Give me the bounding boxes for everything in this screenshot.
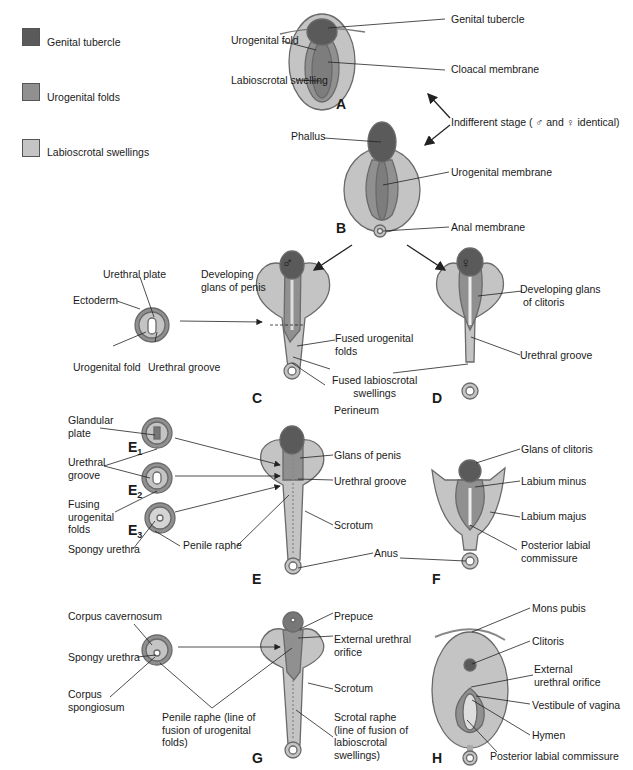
- label-spongy-urethra-g: Spongy urethra: [68, 651, 140, 664]
- label-fusing-urogenital-folds: Fusing urogenital folds: [68, 498, 114, 536]
- label-line: spongiosum: [68, 701, 125, 713]
- label-vestibule-of-vagina: Vestibule of vagina: [532, 699, 620, 712]
- label-urethral-groove-cs: Urethral groove: [148, 361, 220, 374]
- label-line: labioscrotal: [334, 736, 387, 748]
- label-labium-minus: Labium minus: [521, 475, 586, 488]
- section-e3: E3: [128, 522, 142, 540]
- label-line: swellings): [334, 749, 380, 761]
- label-indifferent-stage: Indifferent stage ( ♂ and ♀ identical): [451, 116, 619, 129]
- label-line: External urethral: [334, 633, 411, 645]
- label-line: plate: [68, 427, 91, 439]
- label-urethral-plate: Urethral plate: [103, 268, 166, 281]
- panel-letter-g: G: [252, 750, 263, 766]
- label-line: glans of penis: [201, 281, 266, 293]
- panel-letter-d: D: [432, 390, 442, 406]
- label-external-urethral-orifice-g: External urethral orifice: [334, 633, 411, 658]
- label-line: (line of fusion of: [334, 724, 408, 736]
- label-scrotum-g: Scrotum: [334, 682, 373, 695]
- label-line: External: [534, 663, 573, 675]
- label-line: folds: [335, 345, 357, 357]
- label-glans-of-clitoris: Glans of clitoris: [521, 443, 593, 456]
- label-urogenital-membrane: Urogenital membrane: [451, 166, 552, 179]
- panel-letter-e: E: [252, 571, 261, 587]
- male-symbol: ♂: [282, 254, 293, 271]
- label-cloacal-membrane: Cloacal membrane: [451, 63, 539, 76]
- figure-f: [432, 460, 505, 569]
- label-spongy-urethra-e: Spongy urethra: [68, 543, 140, 556]
- label-line: fusion of urogenital: [162, 724, 251, 736]
- label-urogenital-fold: Urogenital fold: [231, 34, 299, 47]
- label-scrotal-raphe: Scrotal raphe (line of fusion of labiosc…: [334, 711, 408, 761]
- panel-letter-c: C: [252, 390, 262, 406]
- label-line: of clitoris: [520, 296, 564, 308]
- section-e2: E2: [128, 482, 142, 500]
- label-line: Scrotal raphe: [334, 711, 396, 723]
- label-line: Fused labioscrotal: [332, 374, 417, 386]
- label-urethral-groove-e: Urethral groove: [334, 475, 406, 488]
- section-e1: E1: [128, 439, 142, 457]
- panel-letter-f: F: [432, 571, 441, 587]
- label-posterior-labial-commissure-h: Posterior labial commissure: [490, 750, 619, 763]
- label-line: urethral orifice: [534, 676, 601, 688]
- panel-letter-a: A: [336, 96, 346, 112]
- panel-letter-h: H: [432, 750, 442, 766]
- label-line: orifice: [334, 646, 362, 658]
- label-line: folds: [68, 523, 90, 535]
- label-line: Fusing: [68, 498, 100, 510]
- label-line: Developing: [201, 268, 254, 280]
- label-corpus-spongiosum: Corpus spongiosum: [68, 688, 125, 713]
- label-penile-raphe-e: Penile raphe: [183, 539, 242, 552]
- label-line: commissure: [521, 552, 578, 564]
- label-phallus: Phallus: [291, 130, 325, 143]
- label-urogenital-fold-cs: Urogenital fold: [73, 361, 141, 374]
- label-labium-majus: Labium majus: [521, 510, 586, 523]
- panel-letter-b: B: [336, 220, 346, 236]
- label-line: Posterior labial: [521, 539, 590, 551]
- label-glandular-plate: Glandular plate: [68, 414, 114, 439]
- label-hymen: Hymen: [532, 729, 565, 742]
- label-line: Penile raphe (line of: [162, 711, 255, 723]
- label-glans-of-penis: Glans of penis: [334, 449, 401, 462]
- label-corpus-cavernosum: Corpus cavernosum: [68, 610, 162, 623]
- label-fused-labioscrotal-swellings: Fused labioscrotal swellings: [332, 374, 417, 399]
- label-line: groove: [68, 469, 100, 481]
- label-line: urogenital: [68, 511, 114, 523]
- label-line: Glandular: [68, 414, 114, 426]
- label-line: Urethral: [68, 456, 105, 468]
- figure-a: [280, 14, 365, 110]
- label-line: swellings: [353, 387, 396, 399]
- label-line: Developing glans: [520, 283, 601, 295]
- label-line: folds): [162, 736, 188, 748]
- label-perineum: Perineum: [334, 404, 379, 417]
- label-line: Fused urogenital: [335, 332, 413, 344]
- label-clitoris: Clitoris: [532, 635, 564, 648]
- label-developing-glans-penis: Developing glans of penis: [201, 268, 266, 293]
- label-fused-urogenital-folds: Fused urogenital folds: [335, 332, 413, 357]
- label-anal-membrane: Anal membrane: [451, 221, 525, 234]
- label-developing-glans-clitoris: Developing glans of clitoris: [520, 283, 601, 308]
- label-line: Corpus: [68, 688, 102, 700]
- label-posterior-labial-commissure-f: Posterior labial commissure: [521, 539, 590, 564]
- label-labioscrotal-swelling: Labioscrotal swelling: [231, 74, 328, 87]
- figure-b: [344, 122, 420, 237]
- female-symbol: ♀: [460, 254, 471, 271]
- label-anus: Anus: [374, 547, 398, 560]
- label-genital-tubercle: Genital tubercle: [451, 13, 525, 26]
- label-urethral-groove-d: Urethral groove: [520, 349, 592, 362]
- figure-h: [432, 629, 508, 765]
- label-external-urethral-orifice-h: External urethral orifice: [534, 663, 601, 688]
- label-urethral-groove-e-cs: Urethral groove: [68, 456, 105, 481]
- label-prepuce: Prepuce: [334, 610, 373, 623]
- label-ectoderm: Ectoderm: [73, 294, 118, 307]
- label-mons-pubis: Mons pubis: [532, 602, 586, 615]
- label-scrotum-e: Scrotum: [334, 519, 373, 532]
- label-penile-raphe-g: Penile raphe (line of fusion of urogenit…: [162, 711, 255, 749]
